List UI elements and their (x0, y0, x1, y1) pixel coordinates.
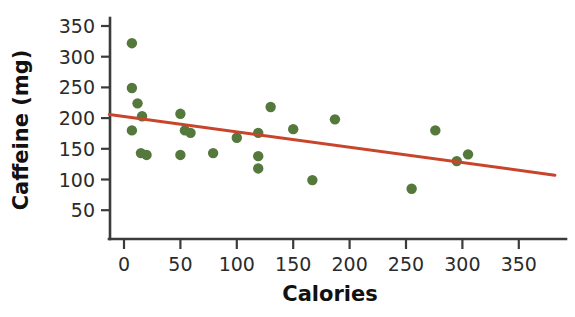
y-tick-label: 50 (71, 199, 95, 221)
data-point (127, 83, 137, 93)
x-tick-label: 350 (501, 253, 537, 275)
data-point (175, 150, 185, 160)
axes-group (109, 18, 566, 239)
data-point (141, 150, 151, 160)
y-axis-ticks: 50100150200250300350 (59, 15, 110, 221)
y-tick-label: 200 (59, 107, 95, 129)
y-tick-label: 300 (59, 46, 95, 68)
data-point (330, 114, 340, 124)
data-point (232, 133, 242, 143)
y-tick-label: 100 (59, 169, 95, 191)
data-point (288, 124, 298, 134)
data-point (132, 98, 142, 108)
data-point (175, 109, 185, 119)
x-tick-label: 150 (275, 253, 311, 275)
chart-canvas: 50100150200250300350 0501001502002503003… (0, 0, 575, 317)
data-point (253, 163, 263, 173)
x-axis-ticks: 050100150200250300350 (118, 239, 537, 275)
scatter-chart: 50100150200250300350 0501001502002503003… (0, 0, 575, 317)
x-tick-label: 0 (118, 253, 130, 275)
data-point (208, 148, 218, 158)
x-tick-label: 300 (444, 253, 480, 275)
data-point (463, 149, 473, 159)
data-point (185, 128, 195, 138)
x-axis-title: Calories (282, 282, 378, 306)
data-point (430, 125, 440, 135)
y-tick-label: 350 (59, 15, 95, 37)
x-tick-label: 250 (388, 253, 424, 275)
x-tick-label: 50 (168, 253, 192, 275)
x-tick-label: 200 (331, 253, 367, 275)
data-point (127, 38, 137, 48)
y-axis-title: Caffeine (mg) (9, 50, 33, 211)
data-points-group (127, 38, 474, 194)
data-point (307, 175, 317, 185)
data-point (253, 151, 263, 161)
y-tick-label: 250 (59, 76, 95, 98)
data-point (406, 184, 416, 194)
data-point (265, 102, 275, 112)
x-tick-label: 100 (219, 253, 255, 275)
y-tick-label: 150 (59, 138, 95, 160)
data-point (127, 125, 137, 135)
